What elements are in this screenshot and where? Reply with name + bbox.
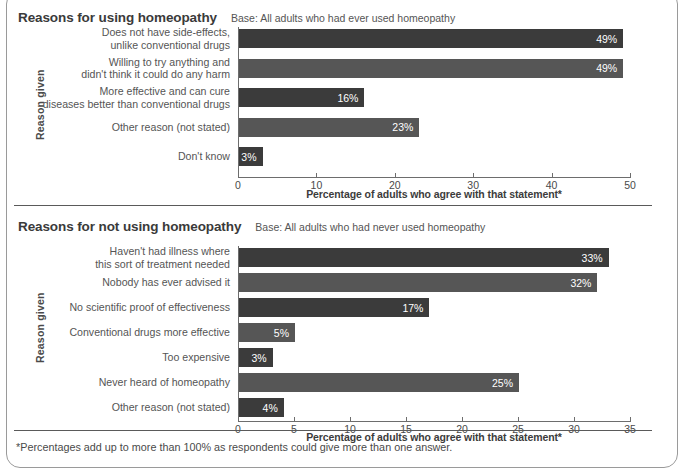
- x-axis-tick-label: 35: [624, 423, 636, 435]
- bar-value-label: 49%: [596, 63, 617, 74]
- x-axis-tick: [350, 417, 351, 421]
- x-axis-tick: [316, 173, 317, 177]
- panel-header-using: Reasons for using homeopathyBase: All ad…: [18, 8, 455, 26]
- bar-value-label: 32%: [570, 277, 591, 288]
- panel-title-using: Reasons for using homeopathy: [18, 10, 217, 25]
- x-axis-tick: [406, 417, 407, 421]
- category-label: Too expensive: [35, 351, 230, 363]
- panel-base-using: Base: All adults who had ever used homeo…: [231, 12, 455, 24]
- bar[interactable]: 5%: [239, 323, 295, 342]
- x-axis-tick: [294, 417, 295, 421]
- x-axis-tick: [574, 417, 575, 421]
- category-label: Does not have side-effects, unlike conve…: [35, 26, 230, 51]
- bar[interactable]: 3%: [239, 348, 273, 367]
- category-label: Never heard of homeopathy: [35, 376, 230, 388]
- bar[interactable]: 17%: [239, 298, 429, 317]
- x-axis-tick-label: 5: [291, 423, 297, 435]
- category-label: Conventional drugs more effective: [35, 326, 230, 338]
- bar[interactable]: 49%: [239, 29, 623, 48]
- category-label: Other reason (not stated): [35, 121, 230, 133]
- bar-value-label: 17%: [402, 302, 423, 313]
- x-axis-tick: [395, 173, 396, 177]
- category-label: No scientific proof of effectiveness: [35, 301, 230, 313]
- panel-base-not-using: Base: All adults who had never used home…: [255, 221, 485, 233]
- x-axis-tick: [630, 173, 631, 177]
- x-axis-line: [238, 177, 631, 178]
- bar[interactable]: 3%: [239, 147, 263, 166]
- x-axis-tick: [238, 417, 239, 421]
- bar[interactable]: 33%: [239, 248, 609, 267]
- category-label: More effective and can cure diseases bet…: [35, 85, 230, 110]
- panel-header-not-using: Reasons for not using homeopathyBase: Al…: [18, 217, 485, 235]
- panel-reasons-for-not-using: Reasons for not using homeopathyBase: Al…: [0, 205, 666, 430]
- bar[interactable]: 23%: [239, 118, 419, 137]
- x-axis-tick: [630, 417, 631, 421]
- category-label: Other reason (not stated): [35, 401, 230, 413]
- bar[interactable]: 32%: [239, 273, 597, 292]
- bar-value-label: 33%: [582, 252, 603, 263]
- x-axis-tick-label: 50: [624, 179, 636, 191]
- bar-value-label: 25%: [492, 377, 513, 388]
- bar-value-label: 49%: [596, 33, 617, 44]
- x-axis-tick: [462, 417, 463, 421]
- x-axis-tick-label: 0: [235, 179, 241, 191]
- x-axis-tick: [473, 173, 474, 177]
- bar-value-label: 3%: [241, 151, 256, 162]
- category-label: Don't know: [35, 150, 230, 162]
- bar-value-label: 23%: [392, 122, 413, 133]
- x-axis-tick: [238, 173, 239, 177]
- x-axis-tick-label: 0: [235, 423, 241, 435]
- category-label: Willing to try anything and didn't think…: [35, 56, 230, 81]
- footer-divider: [14, 430, 652, 431]
- panel-title-not-using: Reasons for not using homeopathy: [18, 219, 241, 234]
- bar-value-label: 3%: [251, 352, 266, 363]
- bar-value-label: 16%: [337, 92, 358, 103]
- bar-value-label: 4%: [263, 402, 278, 413]
- category-label: Nobody has ever advised it: [35, 276, 230, 288]
- x-axis-tick: [552, 173, 553, 177]
- footnote: *Percentages add up to more than 100% as…: [16, 441, 452, 453]
- bar[interactable]: 4%: [239, 398, 284, 417]
- x-axis-line: [238, 421, 631, 422]
- x-axis-tick: [518, 417, 519, 421]
- bar[interactable]: 16%: [239, 88, 364, 107]
- bar[interactable]: 25%: [239, 373, 519, 392]
- bar[interactable]: 49%: [239, 59, 623, 78]
- x-axis-title: Percentage of adults who agree with that…: [306, 188, 562, 200]
- category-label: Haven't had illness where this sort of t…: [35, 245, 230, 270]
- bar-value-label: 5%: [274, 327, 289, 338]
- x-axis-tick-label: 30: [568, 423, 580, 435]
